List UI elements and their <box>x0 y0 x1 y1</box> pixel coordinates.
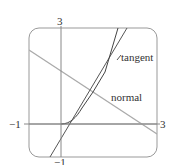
tangent-label: tangent <box>121 52 153 63</box>
normal-label: normal <box>111 92 142 103</box>
y-min-label: −1 <box>54 157 66 165</box>
x-max-label: 3 <box>160 119 166 130</box>
graph-canvas <box>0 0 173 165</box>
y-max-label: 3 <box>57 16 63 27</box>
x-min-label: −1 <box>9 119 21 130</box>
